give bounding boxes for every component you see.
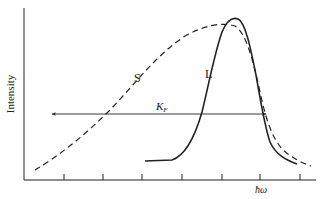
axes bbox=[24, 8, 316, 180]
kf-label-sub: F bbox=[162, 106, 168, 114]
x-ticks bbox=[64, 174, 300, 180]
y-axis-label: Intensity bbox=[4, 74, 16, 113]
chart: Intensity S L KF ħω bbox=[0, 0, 322, 199]
kf-label: KF bbox=[155, 100, 168, 114]
series-s-curve bbox=[35, 24, 311, 170]
series-l-curve bbox=[145, 18, 297, 164]
x-axis-label: ħω bbox=[255, 184, 267, 195]
curve-l-label: L bbox=[205, 67, 212, 81]
curve-s-label: S bbox=[134, 71, 141, 85]
